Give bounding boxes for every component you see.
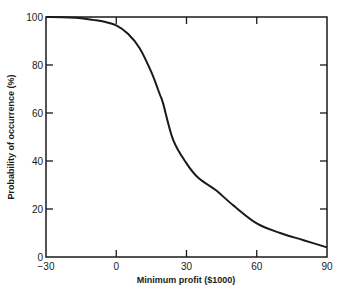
probability-curve xyxy=(46,17,327,247)
plot-frame xyxy=(46,17,327,257)
x-tick-label: 30 xyxy=(181,261,193,272)
y-tick-label: 100 xyxy=(26,12,43,23)
chart: −300306090 020406080100 Minimum profit (… xyxy=(0,0,345,291)
y-axis-tick-labels: 020406080100 xyxy=(26,12,43,263)
axis-ticks xyxy=(46,17,327,257)
y-tick-label: 40 xyxy=(32,156,44,167)
y-tick-label: 80 xyxy=(32,60,44,71)
y-axis-title: Probability of occurrence (%) xyxy=(6,74,16,199)
x-tick-label: 90 xyxy=(321,261,333,272)
x-axis-title: Minimum profit ($1000) xyxy=(137,275,236,285)
y-tick-label: 0 xyxy=(37,252,43,263)
y-tick-label: 60 xyxy=(32,108,44,119)
x-axis-tick-labels: −300306090 xyxy=(38,261,333,272)
x-tick-label: 0 xyxy=(113,261,119,272)
y-tick-label: 20 xyxy=(32,204,44,215)
x-tick-label: 60 xyxy=(251,261,263,272)
